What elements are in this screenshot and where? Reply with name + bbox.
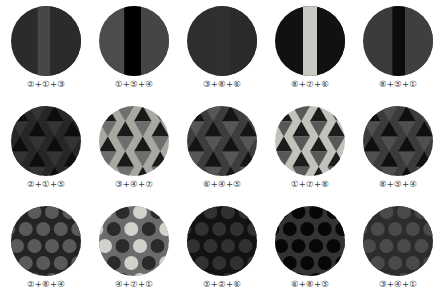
swatch-cell: ⑥+⑧+⑤ [266,206,354,306]
texture-swatch-triangles [187,106,257,176]
swatch-cell: ③+④+⑦ [90,106,178,206]
texture-swatch-dots [275,206,345,276]
swatch-cell: ①+⑦+⑧ [266,106,354,206]
swatch-cell: ②+⑧+④ [2,206,90,306]
texture-swatch-triangles [275,106,345,176]
texture-swatch-vertical-stripes [99,6,169,76]
swatch-caption: ②+⑧+④ [27,280,65,289]
texture-swatch-triangles [11,106,81,176]
texture-swatch-vertical-stripes [11,6,81,76]
swatch-caption: ③+④+⑦ [115,180,153,189]
texture-swatch-triangles [363,106,433,176]
swatch-cell: ⑧+⑦+⑥ [266,6,354,106]
swatch-cell: ⑥+④+⑤ [178,106,266,206]
swatch-caption: ⑤+②+⑥ [203,280,241,289]
swatch-caption: ④+⑦+① [115,280,153,289]
texture-swatch-dots [363,206,433,276]
swatch-caption: ③+④+① [379,280,417,289]
swatch-cell: ⑧+⑤+④ [354,106,442,206]
swatch-cell: ②+①+⑤ [2,106,90,206]
swatch-cell: ③+④+① [354,206,442,306]
texture-swatch-vertical-stripes [275,6,345,76]
swatch-cell: ①+⑤+④ [90,6,178,106]
swatch-caption: ③+⑧+⑥ [203,80,241,89]
swatch-caption: ⑥+④+⑤ [203,180,241,189]
texture-swatch-vertical-stripes [187,6,257,76]
swatch-grid: ②+①+③①+⑤+④③+⑧+⑥⑧+⑦+⑥⑧+⑤+①②+①+⑤③+④+⑦⑥+④+⑤… [0,0,444,308]
swatch-cell: ④+⑦+① [90,206,178,306]
texture-swatch-dots [187,206,257,276]
swatch-caption: ①+⑤+④ [115,80,153,89]
swatch-caption: ⑧+⑦+⑥ [291,80,329,89]
texture-swatch-vertical-stripes [363,6,433,76]
texture-swatch-triangles [99,106,169,176]
swatch-cell: ⑤+②+⑥ [178,206,266,306]
swatch-caption: ①+⑦+⑧ [291,180,329,189]
swatch-cell: ③+⑧+⑥ [178,6,266,106]
swatch-caption: ⑧+⑤+④ [379,180,417,189]
texture-swatch-dots [99,206,169,276]
swatch-caption: ②+①+③ [27,80,65,89]
swatch-caption: ②+①+⑤ [27,180,65,189]
swatch-caption: ⑥+⑧+⑤ [291,280,329,289]
texture-swatch-dots [11,206,81,276]
texture-swatch-figure: ②+①+③①+⑤+④③+⑧+⑥⑧+⑦+⑥⑧+⑤+①②+①+⑤③+④+⑦⑥+④+⑤… [0,0,444,308]
swatch-cell: ②+①+③ [2,6,90,106]
swatch-caption: ⑧+⑤+① [379,80,417,89]
swatch-cell: ⑧+⑤+① [354,6,442,106]
